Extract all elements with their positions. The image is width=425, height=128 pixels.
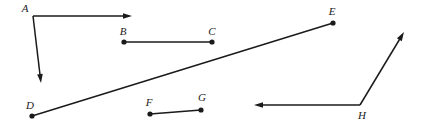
point-label-e: E [328,5,336,17]
vertex-dot-f [147,111,152,116]
strokes-layer [32,13,404,116]
ray-h-upright [360,36,401,105]
point-label-g: G [198,91,206,103]
ray-a-right-arrowhead [123,13,132,19]
point-label-f: F [145,96,153,108]
segment-fg [150,110,201,114]
point-label-b: B [120,25,127,37]
segment-de [32,23,333,116]
vertex-dot-b [121,39,126,44]
figure-canvas: ABCDEFGH [0,0,425,128]
ray-h-left-arrowhead [254,102,263,108]
point-label-h: H [357,109,367,121]
point-label-a: A [21,2,29,14]
point-label-d: D [25,99,34,111]
ray-a-down [33,16,40,78]
ray-a-down-arrowhead [37,74,43,83]
ray-h-upright-arrowhead [397,32,404,41]
point-label-c: C [208,25,216,37]
geometry-figure: ABCDEFGH [0,0,425,128]
vertex-dot-d [29,113,34,118]
vertex-dot-e [330,20,335,25]
vertex-dot-g [198,107,203,112]
vertex-dot-c [209,39,214,44]
